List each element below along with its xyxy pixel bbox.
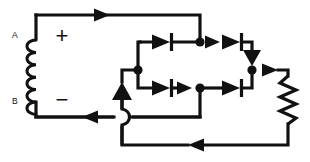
- current-arrow-bottom-node: [177, 82, 192, 95]
- terminal-label-b: B: [12, 96, 18, 106]
- current-arrow-bridge-right-down: [243, 50, 261, 66]
- current-arrow-bridge-left-up: [112, 82, 132, 100]
- current-arrow-to-load: [262, 64, 278, 77]
- diode-bottom-left: [152, 79, 177, 97]
- diode-top-right: [222, 33, 252, 51]
- current-arrow-top-node: [205, 36, 220, 49]
- circuit-diagram: A B + −: [0, 0, 310, 162]
- terminal-label-a: A: [12, 30, 18, 40]
- diode-top-left: [152, 33, 200, 51]
- wire-bridge-bottom-return: [122, 88, 200, 117]
- wire-bridge-topleft-riser: [138, 42, 152, 70]
- polarity-plus: +: [56, 23, 69, 48]
- load-resistor: [280, 76, 296, 124]
- polarity-minus: −: [56, 87, 69, 112]
- diode-bottom-right: [222, 70, 252, 97]
- circuit-canvas: A B + −: [0, 0, 310, 162]
- current-arrow-top-wire: [94, 9, 110, 22]
- current-arrow-return-wire: [188, 139, 204, 152]
- wire-source-bottom: [36, 102, 122, 117]
- wire-resistor-return-right: [200, 124, 288, 145]
- wire-node4-to-resistor: [278, 70, 288, 76]
